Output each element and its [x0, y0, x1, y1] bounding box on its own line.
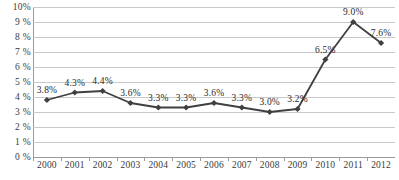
data-point-label: 3.3%: [148, 93, 169, 103]
data-point-label: 3.8%: [37, 85, 58, 95]
x-tick-label: 2005: [176, 160, 196, 170]
data-point-label: 3.3%: [232, 93, 253, 103]
series-line: [47, 22, 381, 112]
x-tick-label: 2012: [371, 160, 391, 170]
y-tick-label: 3 %: [0, 107, 31, 117]
x-tick-label: 2010: [315, 160, 335, 170]
data-point-label: 6.5%: [315, 45, 336, 55]
x-axis-tick-labels: 2000200120022003200420052006200720082009…: [33, 160, 395, 178]
data-point-marker: [72, 89, 78, 95]
data-point-marker: [127, 100, 133, 106]
y-tick-label: 1 %: [0, 137, 31, 147]
data-point-label: 3.2%: [287, 94, 308, 104]
x-tick-label: 2002: [93, 160, 113, 170]
data-point-marker: [239, 104, 245, 110]
data-point-label: 3.6%: [204, 88, 225, 98]
line-chart: 0 %1 %2 %3 %4 %5 %6 %7 %8 %9 %10% 200020…: [0, 0, 399, 180]
x-tick-label: 2011: [343, 160, 362, 170]
y-tick-label: 6 %: [0, 62, 31, 72]
x-tick-label: 2009: [288, 160, 308, 170]
y-tick-label: 2 %: [0, 122, 31, 132]
data-series: [33, 7, 395, 157]
y-tick-label: 10%: [0, 2, 31, 12]
data-point-label: 7.6%: [371, 28, 392, 38]
x-tick-label: 2006: [204, 160, 224, 170]
plot-area: [33, 7, 395, 157]
y-tick-label: 7 %: [0, 47, 31, 57]
x-tick-label: 2001: [65, 160, 85, 170]
x-tick-label: 2007: [232, 160, 252, 170]
y-tick-label: 8 %: [0, 32, 31, 42]
x-tick-label: 2000: [37, 160, 57, 170]
y-tick-label: 4 %: [0, 92, 31, 102]
data-point-marker: [211, 100, 217, 106]
x-tick-label: 2003: [121, 160, 141, 170]
x-tick-label: 2004: [148, 160, 168, 170]
y-tick-label: 5 %: [0, 77, 31, 87]
data-point-marker: [183, 104, 189, 110]
y-axis-tick-labels: 0 %1 %2 %3 %4 %5 %6 %7 %8 %9 %10%: [0, 0, 31, 180]
data-point-marker: [155, 104, 161, 110]
y-tick-label: 0 %: [0, 152, 31, 162]
data-point-marker: [267, 109, 273, 115]
data-point-label: 3.3%: [176, 93, 197, 103]
series-markers: [44, 19, 384, 115]
data-point-label: 9.0%: [343, 7, 364, 17]
data-point-label: 4.3%: [64, 78, 85, 88]
y-tick-label: 9 %: [0, 17, 31, 27]
data-point-label: 3.6%: [120, 88, 141, 98]
data-point-marker: [100, 88, 106, 94]
data-point-label: 4.4%: [92, 76, 113, 86]
gridline-0pct: [33, 157, 395, 158]
x-tick-label: 2008: [260, 160, 280, 170]
data-point-marker: [44, 97, 50, 103]
data-point-label: 3.0%: [259, 97, 280, 107]
